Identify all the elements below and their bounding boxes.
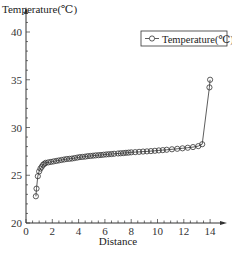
y-tick-label: 20 xyxy=(11,217,23,229)
y-axis-title: Temperature(℃) xyxy=(2,3,77,16)
series-line xyxy=(36,80,210,197)
y-tick-label: 35 xyxy=(11,74,23,86)
x-tick-label: 4 xyxy=(76,225,82,237)
y-tick-label: 25 xyxy=(11,169,23,181)
x-axis-arrow-icon xyxy=(220,221,227,225)
x-tick-label: 12 xyxy=(178,225,189,237)
y-ticks: 2025303540 xyxy=(11,22,30,229)
temperature-series xyxy=(33,77,212,199)
legend-label: Temperature(℃) xyxy=(162,34,232,46)
legend: Temperature(℃) xyxy=(141,31,232,46)
x-tick-label: 14 xyxy=(205,225,217,237)
y-tick-label: 30 xyxy=(11,122,23,134)
y-tick-label: 40 xyxy=(11,26,23,38)
x-tick-label: 0 xyxy=(23,225,29,237)
x-tick-label: 10 xyxy=(152,225,164,237)
x-tick-label: 2 xyxy=(50,225,56,237)
x-axis-title: Distance xyxy=(99,235,138,247)
temperature-chart: 2025303540 02468101214 Temperature(℃) Di… xyxy=(0,0,232,254)
legend-circle-marker-icon xyxy=(149,36,154,41)
